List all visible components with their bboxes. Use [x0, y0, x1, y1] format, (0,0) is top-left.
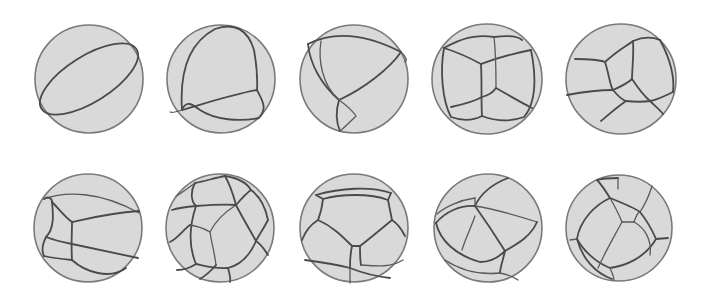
sphere-r1c5 — [561, 20, 681, 140]
sphere-tessellation-figure — [0, 0, 711, 308]
sphere-r2c4 — [429, 169, 549, 289]
sphere-r2c2 — [161, 169, 281, 289]
sphere-r2c3 — [295, 169, 415, 289]
sphere-r1c4 — [427, 20, 547, 140]
sphere-r2c1 — [29, 169, 149, 289]
sphere-r1c3 — [295, 20, 415, 140]
sphere-r1c1 — [30, 20, 150, 140]
sphere-r2c5 — [561, 169, 681, 289]
sphere-r1c2 — [162, 20, 282, 140]
